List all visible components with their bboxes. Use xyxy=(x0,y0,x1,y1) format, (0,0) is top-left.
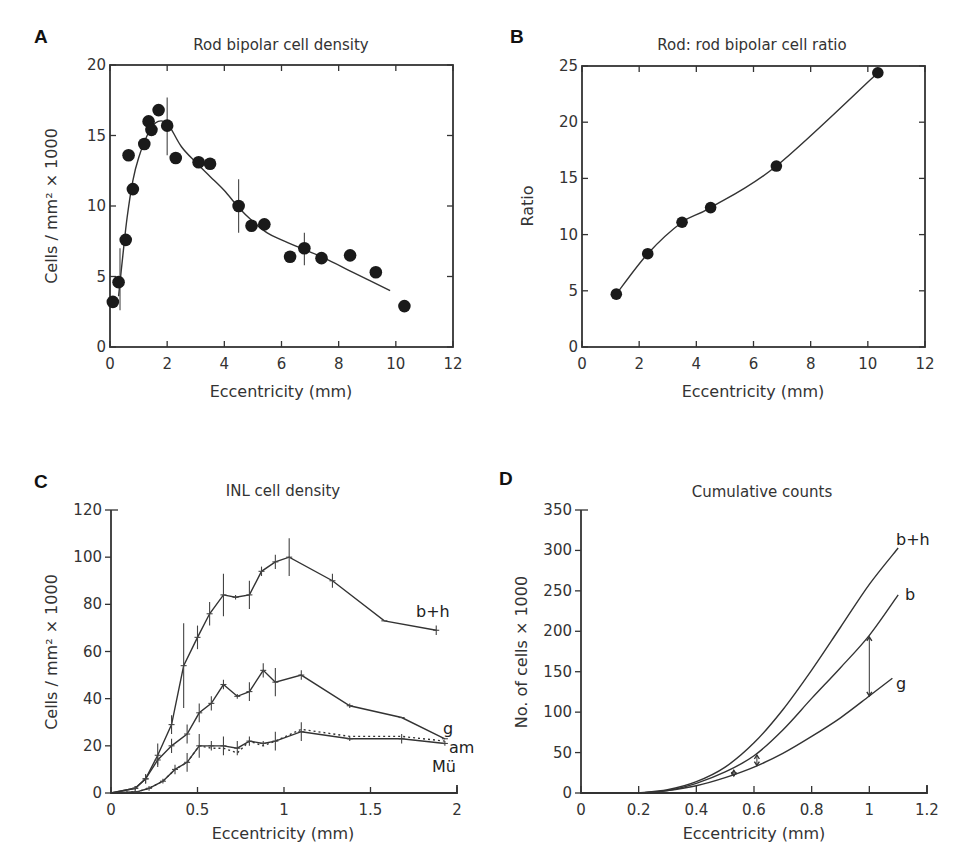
series-label-mu: Mü xyxy=(432,757,456,776)
data-point xyxy=(112,276,125,289)
x-tick-label: 2 xyxy=(452,801,462,819)
y-tick-label: 25 xyxy=(559,57,578,75)
panel-c-axes: 00.511.52020406080100120 xyxy=(73,501,461,819)
x-tick-label: 0 xyxy=(576,801,586,819)
x-tick-label: 1 xyxy=(865,801,875,819)
figure: A Rod bipolar cell density 0246810120510… xyxy=(0,0,965,867)
panel-d-plot xyxy=(639,548,899,793)
data-point xyxy=(344,249,357,262)
cumulative-curve xyxy=(639,595,899,793)
data-point xyxy=(127,183,140,196)
y-tick-label: 20 xyxy=(87,56,106,74)
x-tick-label: 10 xyxy=(858,355,877,373)
x-tick-label: 1.5 xyxy=(359,801,383,819)
y-tick-label: 100 xyxy=(73,548,102,566)
x-tick-label: 8 xyxy=(334,355,344,373)
data-point xyxy=(152,104,165,117)
panel-b-frame xyxy=(582,66,925,347)
panel-c-title: INL cell density xyxy=(226,482,340,500)
panel-d-axes: 00.20.40.60.811.2050100150200250300350 xyxy=(543,501,939,819)
y-tick-label: 20 xyxy=(83,737,102,755)
series-label-g: g xyxy=(896,674,906,693)
data-point xyxy=(245,219,258,232)
x-tick-label: 4 xyxy=(692,355,702,373)
x-tick-label: 12 xyxy=(443,355,462,373)
series-label-b-h: b+h xyxy=(416,602,450,621)
data-point xyxy=(192,156,205,169)
panel-c-plot xyxy=(111,538,448,793)
y-tick-label: 5 xyxy=(568,282,578,300)
axes-lines xyxy=(581,510,927,793)
data-point xyxy=(398,300,411,313)
x-tick-label: 4 xyxy=(220,355,230,373)
panel-letter-a: A xyxy=(34,26,48,47)
x-tick-label: 6 xyxy=(749,355,759,373)
y-tick-label: 300 xyxy=(543,541,572,559)
y-tick-label: 40 xyxy=(83,690,102,708)
data-point xyxy=(161,119,174,132)
series-label-b: b xyxy=(905,585,915,604)
panel-letter-d: D xyxy=(499,468,513,489)
data-point xyxy=(107,296,120,309)
x-tick-label: 12 xyxy=(915,355,934,373)
panel-c: C INL cell density 00.511.52020406080100… xyxy=(34,471,474,843)
series-label-g: g xyxy=(443,719,453,738)
panel-c-ylabel: Cells / mm² × 1000 xyxy=(42,574,61,730)
panel-letter-c: C xyxy=(34,471,48,492)
data-point xyxy=(119,234,132,247)
data-point xyxy=(204,157,217,170)
data-point xyxy=(370,266,383,279)
y-tick-label: 120 xyxy=(73,501,102,519)
y-tick-label: 15 xyxy=(87,127,106,145)
y-tick-label: 0 xyxy=(568,338,578,356)
y-tick-label: 20 xyxy=(559,113,578,131)
x-tick-label: 2 xyxy=(634,355,644,373)
x-tick-label: 2 xyxy=(162,355,172,373)
y-tick-label: 0 xyxy=(92,784,102,802)
y-tick-label: 150 xyxy=(543,663,572,681)
series-label-b-h: b+h xyxy=(896,530,930,549)
panel-b: B Rod: rod bipolar cell ratio 0246810120… xyxy=(510,26,935,401)
panel-a-ylabel: Cells / mm² × 1000 xyxy=(42,128,61,284)
data-point xyxy=(145,124,158,137)
panel-d-ylabel: No. of cells × 1000 xyxy=(512,576,531,728)
data-point xyxy=(232,200,245,213)
data-point xyxy=(642,248,654,260)
panel-b-xlabel: Eccentricity (mm) xyxy=(682,382,825,401)
y-tick-label: 50 xyxy=(553,744,572,762)
panel-a-title: Rod bipolar cell density xyxy=(193,36,369,54)
panel-d-xlabel: Eccentricity (mm) xyxy=(683,824,826,843)
fit-curve xyxy=(119,121,391,296)
data-point xyxy=(611,288,623,300)
panel-c-xlabel: Eccentricity (mm) xyxy=(212,824,355,843)
cumulative-curve xyxy=(639,548,899,793)
x-tick-label: 0.2 xyxy=(627,801,651,819)
data-point xyxy=(258,218,271,231)
data-point xyxy=(298,242,311,255)
panel-d: D Cumulative counts 00.20.40.60.811.2050… xyxy=(499,468,939,843)
y-tick-label: 10 xyxy=(87,197,106,215)
x-tick-label: 0 xyxy=(105,355,115,373)
data-point xyxy=(315,252,328,265)
data-point xyxy=(284,250,297,263)
panel-b-plot xyxy=(611,67,884,300)
y-tick-label: 0 xyxy=(96,338,106,356)
y-tick-label: 15 xyxy=(559,169,578,187)
x-tick-label: 6 xyxy=(277,355,287,373)
x-tick-label: 10 xyxy=(386,355,405,373)
x-tick-label: 1 xyxy=(279,801,289,819)
y-tick-label: 10 xyxy=(559,226,578,244)
panel-a-xlabel: Eccentricity (mm) xyxy=(210,382,353,401)
panel-letter-b: B xyxy=(510,26,524,47)
panel-a: A Rod bipolar cell density 0246810120510… xyxy=(34,26,463,401)
y-tick-label: 80 xyxy=(83,595,102,613)
panel-a-ticks: 02468101205101520 xyxy=(87,56,463,373)
x-tick-label: 0.4 xyxy=(684,801,708,819)
x-tick-label: 0.5 xyxy=(186,801,210,819)
cumulative-curve xyxy=(639,678,893,793)
panel-b-title: Rod: rod bipolar cell ratio xyxy=(657,36,846,54)
y-tick-label: 100 xyxy=(543,703,572,721)
y-tick-label: 5 xyxy=(96,268,106,286)
x-tick-label: 0 xyxy=(577,355,587,373)
data-point xyxy=(771,160,783,172)
